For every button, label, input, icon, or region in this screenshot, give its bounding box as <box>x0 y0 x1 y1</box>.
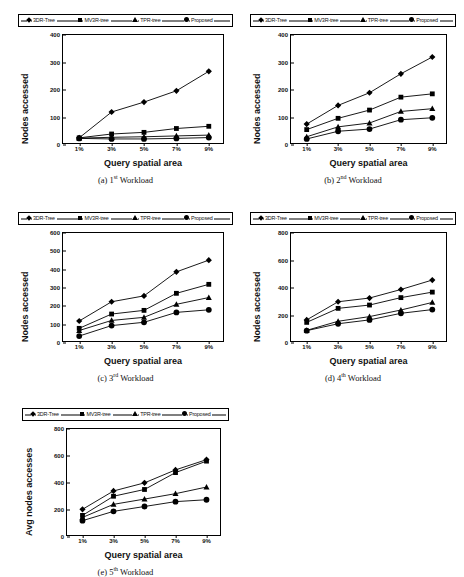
plot-area: 01002003004001%3%5%7%9% <box>290 34 447 144</box>
legend-label: 3DR-Tree <box>264 18 289 23</box>
y-axis-tick: 800 <box>54 426 67 432</box>
data-point <box>367 303 372 308</box>
data-point <box>76 333 82 339</box>
data-point <box>206 282 211 287</box>
data-point <box>142 487 147 492</box>
y-axis-tick: 200 <box>278 87 291 93</box>
plot-area: 02004006008001%3%5%7%9% <box>290 232 447 342</box>
legend-item-proposed: Proposed <box>178 215 230 221</box>
data-point <box>367 317 373 323</box>
legend-label: MV3R-tree <box>83 216 110 221</box>
data-point <box>335 321 341 327</box>
y-axis-tick: 600 <box>54 453 67 459</box>
data-point <box>429 277 435 283</box>
legend-marker-diamond-icon <box>259 216 263 221</box>
data-point <box>174 126 179 131</box>
data-point <box>430 91 435 96</box>
y-axis-label: Avg nodes accesses <box>24 448 34 536</box>
legend-label: TPR-tree <box>367 18 390 23</box>
legend-marker-triangle-icon <box>132 411 138 417</box>
y-axis-tick: 300 <box>50 60 63 66</box>
legend-marker-square-icon <box>80 412 84 417</box>
data-point <box>206 294 212 300</box>
data-point <box>141 319 147 325</box>
legend-label: MV3R-tree <box>313 216 340 221</box>
data-point <box>142 308 147 313</box>
legend-item-tpr-tree: TPR-tree <box>354 17 404 23</box>
data-point <box>109 299 115 305</box>
x-axis-label: Query spatial area <box>290 158 447 168</box>
x-axis-label: Query spatial area <box>66 550 221 560</box>
data-point <box>110 488 116 494</box>
legend-item-tpr-tree: TPR-tree <box>126 215 178 221</box>
x-axis-label: Query spatial area <box>290 356 447 366</box>
data-point <box>76 136 82 142</box>
panel-caption: (c) 3rd Workload <box>18 372 233 383</box>
legend-item-mv3r-tree: MV3R-tree <box>72 18 126 23</box>
data-point <box>429 307 435 313</box>
data-point <box>141 480 147 486</box>
plot-area: 02004006008001%3%5%7%9% <box>66 428 221 536</box>
data-point <box>336 306 341 311</box>
y-axis-tick: 600 <box>50 230 63 236</box>
data-point <box>174 309 180 315</box>
y-axis-label: Nodes accessed <box>20 271 30 342</box>
data-point <box>80 518 86 524</box>
data-point <box>304 121 310 127</box>
series-layer <box>67 429 222 537</box>
legend-marker-circle-icon <box>184 17 189 23</box>
data-point <box>206 68 212 74</box>
legend-item-proposed: Proposed <box>403 17 453 23</box>
series-layer <box>63 233 225 343</box>
data-point <box>366 295 372 301</box>
legend-item-tpr-tree: TPR-tree <box>126 411 176 417</box>
y-axis-tick: 100 <box>278 115 291 121</box>
legend-marker-diamond-icon <box>27 18 31 23</box>
panel-caption: (b) 2nd Workload <box>250 174 456 185</box>
figure-grid: 3DR-Tree MV3R-tree TPR-tree Proposed Nod… <box>0 0 464 577</box>
chart-panel-d: 3DR-Tree MV3R-tree TPR-tree Proposed Nod… <box>250 212 456 384</box>
data-point <box>204 497 210 503</box>
data-point <box>174 136 180 142</box>
y-axis-label: Nodes accessed <box>252 271 262 342</box>
legend-marker-diamond-icon <box>31 412 35 417</box>
legend-item-proposed: Proposed <box>178 17 230 23</box>
data-point <box>336 116 341 121</box>
x-axis-label: Query spatial area <box>62 356 224 366</box>
y-axis-tick: 200 <box>54 507 67 513</box>
series-layer <box>291 233 448 343</box>
y-axis-tick: 100 <box>50 115 63 121</box>
legend-item-mv3r-tree: MV3R-tree <box>302 216 354 221</box>
data-point <box>173 470 178 475</box>
legend-item-tpr-tree: TPR-tree <box>126 17 178 23</box>
y-axis-tick: 200 <box>278 313 291 319</box>
legend-label: 3DR-Tree <box>32 216 57 221</box>
legend-marker-circle-icon <box>182 411 187 417</box>
legend-label: TPR-tree <box>139 18 162 23</box>
legend-item-3dr-tree: 3DR-Tree <box>253 216 302 221</box>
legend-marker-square-icon <box>308 216 312 221</box>
chart-legend: 3DR-Tree MV3R-tree TPR-tree Proposed <box>22 408 229 421</box>
y-axis-tick: 500 <box>50 248 63 254</box>
legend-marker-triangle-icon <box>360 215 366 221</box>
chart-legend: 3DR-Tree MV3R-tree TPR-tree Proposed <box>250 14 456 27</box>
legend-label: Proposed <box>415 18 439 23</box>
legend-label: Proposed <box>415 216 439 221</box>
data-point <box>141 99 147 105</box>
data-point <box>430 290 435 295</box>
legend-label: Proposed <box>190 18 214 23</box>
y-axis-tick: 300 <box>278 60 291 66</box>
legend-marker-circle-icon <box>409 215 414 221</box>
y-axis-tick: 400 <box>54 480 67 486</box>
legend-label: TPR-tree <box>139 412 162 417</box>
legend-label: Proposed <box>190 216 214 221</box>
data-point <box>142 504 148 510</box>
y-axis-tick: 400 <box>50 32 63 38</box>
data-point <box>206 135 212 141</box>
data-point <box>204 459 209 464</box>
data-point <box>173 499 179 505</box>
data-point <box>367 126 373 132</box>
data-point <box>304 136 310 142</box>
legend-item-mv3r-tree: MV3R-tree <box>302 18 354 23</box>
y-axis-tick: 400 <box>278 285 291 291</box>
